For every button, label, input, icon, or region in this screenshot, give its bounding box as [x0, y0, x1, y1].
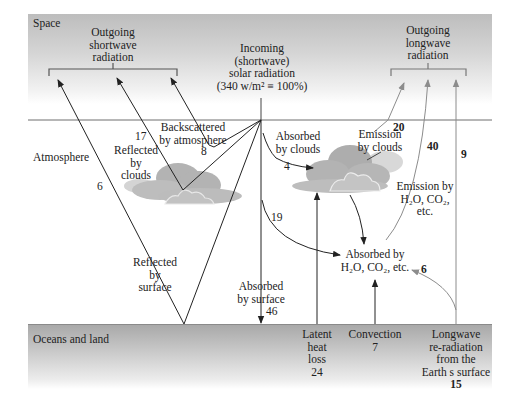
surface-to-gases-arrow	[412, 270, 456, 310]
incoming-solar-label: Incoming (shortwave) solar radiation (34…	[206, 42, 318, 92]
emission-clouds-arrow	[388, 83, 404, 120]
oceans-land-label: Oceans and land	[33, 333, 109, 346]
reflected-surface-value: 6	[97, 180, 103, 192]
convection-label: Convection 7	[346, 328, 404, 353]
backscattered-label: Backscattered by atmosphere	[155, 121, 231, 146]
latent-heat-label: Latent heat loss 24	[296, 328, 338, 378]
space-label: Space	[33, 17, 60, 30]
absorbed-by-atmosphere-arrow	[262, 200, 340, 255]
emission-gases-value: 40	[427, 140, 439, 152]
atmosphere-label: Atmosphere	[33, 151, 89, 164]
outgoing-longwave-bracket	[391, 63, 466, 76]
absorbed-gases-value: 6	[421, 263, 427, 275]
outgoing-shortwave-bracket	[49, 63, 177, 76]
absorbed-clouds-value: 4	[284, 160, 290, 172]
outgoing-longwave-label: Outgoing longwave radiation	[396, 24, 460, 62]
longwave-reradiation-label: Longwave re-radiation from the Earth s s…	[418, 328, 494, 391]
reflected-clouds-value: 17	[135, 130, 147, 142]
reflected-clouds-label: Reflected by clouds	[113, 144, 159, 182]
absorbed-gases-label: Absorbed by H₂O, CO₂, etc.	[340, 248, 410, 273]
cloud-to-gases-arrow	[350, 195, 364, 244]
emission-gases-label: Emission by H₂O, CO₂, etc.	[394, 180, 456, 218]
emission-clouds-label: Emission by clouds	[356, 128, 404, 153]
outgoing-shortwave-label: Outgoing shortwave radiation	[80, 26, 146, 64]
surface-to-space-value: 9	[461, 148, 467, 160]
absorbed-surface-value: 46	[266, 305, 278, 317]
absorbed-clouds-label: Absorbed by clouds	[270, 130, 326, 155]
reflected-surface-label: Reflected by surface	[132, 256, 178, 294]
backscattered-value: 8	[201, 145, 207, 157]
absorbed-surface-label: Absorbed by surface	[232, 280, 290, 305]
absorbed-atmosphere-value: 19	[271, 211, 283, 223]
